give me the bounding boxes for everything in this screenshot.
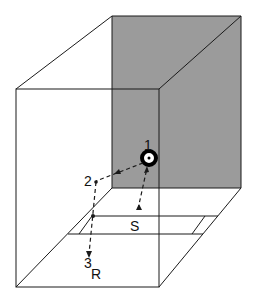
shaded-back-wall	[112, 16, 241, 188]
label-source: S	[130, 218, 139, 234]
label-point-2: 2	[84, 173, 92, 189]
label-point-1: 1	[144, 137, 152, 153]
label-receiver: R	[91, 266, 101, 282]
room-diagram: 1 2 3 S R	[0, 0, 255, 307]
